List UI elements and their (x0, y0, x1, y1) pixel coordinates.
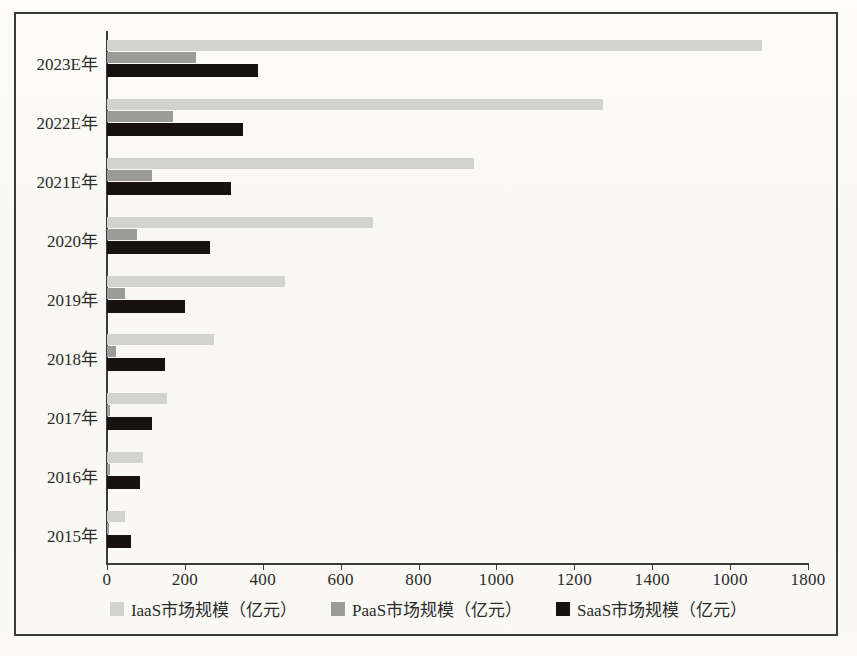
legend-item[interactable]: SaaS市场规模（亿元） (556, 596, 747, 621)
y-axis-category-label: 2023E年 (37, 50, 98, 75)
legend-label: PaaS市场规模（亿元） (352, 596, 522, 621)
x-tick-mark (185, 563, 186, 570)
bar-saas (107, 417, 152, 430)
chart-category-row: 2019年 (107, 269, 808, 328)
bar-paas (107, 464, 110, 475)
y-axis-category-label: 2021E年 (37, 168, 98, 193)
bar-paas (107, 288, 125, 299)
x-tick-mark (574, 563, 575, 570)
x-tick-label: 200 (172, 570, 198, 590)
bar-saas (107, 535, 131, 548)
bar-saas (107, 358, 165, 371)
x-axis-line (106, 563, 809, 565)
legend-label: SaaS市场规模（亿元） (577, 596, 747, 621)
x-tick-mark (652, 563, 653, 570)
bar-saas (107, 241, 210, 254)
bar-saas (107, 123, 243, 136)
legend-swatch-paas-icon (331, 602, 345, 616)
chart-category-row: 2015年 (107, 504, 808, 563)
bar-saas (107, 182, 231, 195)
x-tick-mark (419, 563, 420, 570)
chart-category-row: 2018年 (107, 327, 808, 386)
x-tick-label: 1000 (479, 570, 514, 590)
x-tick-label: 1400 (635, 570, 670, 590)
bar-saas (107, 300, 185, 313)
bar-iaas (107, 217, 373, 228)
chart-category-row: 2016年 (107, 445, 808, 504)
x-tick-mark (808, 563, 809, 570)
x-tick-label: 1200 (557, 570, 592, 590)
bar-iaas (107, 511, 125, 522)
x-tick-label: 600 (327, 570, 353, 590)
y-axis-category-label: 2015年 (47, 521, 98, 546)
y-axis-category-label: 2022E年 (37, 109, 98, 134)
bar-paas (107, 523, 109, 534)
x-tick-label: 1800 (790, 570, 825, 590)
bar-iaas (107, 334, 214, 345)
legend-swatch-iaas-icon (110, 602, 124, 616)
chart-legend: IaaS市场规模（亿元）PaaS市场规模（亿元）SaaS市场规模（亿元） (0, 596, 857, 621)
x-tick-label: 800 (405, 570, 431, 590)
bar-iaas (107, 99, 603, 110)
y-axis-category-label: 2018年 (47, 344, 98, 369)
x-tick-mark (730, 563, 731, 570)
x-tick-mark (263, 563, 264, 570)
bar-iaas (107, 452, 143, 463)
x-tick-mark (496, 563, 497, 570)
chart-category-row: 2023E年 (107, 33, 808, 92)
chart-category-row: 2017年 (107, 386, 808, 445)
chart-category-row: 2022E年 (107, 92, 808, 151)
bar-paas (107, 405, 110, 416)
x-tick-label: 0 (103, 570, 112, 590)
y-axis-category-label: 2016年 (47, 462, 98, 487)
x-tick-mark (107, 563, 108, 570)
bar-iaas (107, 276, 285, 287)
x-tick-label: 400 (250, 570, 276, 590)
x-tick-label: 1000 (713, 570, 748, 590)
chart-page: 020040060080010001200140010001800 2023E年… (0, 0, 857, 656)
legend-swatch-saas-icon (556, 602, 570, 616)
chart-category-row: 2021E年 (107, 151, 808, 210)
bar-iaas (107, 40, 762, 51)
bar-paas (107, 111, 173, 122)
bar-paas (107, 170, 152, 181)
bar-saas (107, 64, 258, 77)
bar-iaas (107, 158, 474, 169)
bar-paas (107, 229, 137, 240)
y-axis-category-label: 2020年 (47, 227, 98, 252)
bar-iaas (107, 393, 167, 404)
legend-label: IaaS市场规模（亿元） (131, 596, 297, 621)
plot-area: 2023E年2022E年2021E年2020年2019年2018年2017年20… (107, 33, 808, 563)
y-axis-category-label: 2019年 (47, 285, 98, 310)
bar-paas (107, 52, 196, 63)
bar-saas (107, 476, 140, 489)
y-axis-category-label: 2017年 (47, 403, 98, 428)
legend-item[interactable]: IaaS市场规模（亿元） (110, 596, 297, 621)
legend-item[interactable]: PaaS市场规模（亿元） (331, 596, 522, 621)
bar-paas (107, 346, 116, 357)
chart-category-row: 2020年 (107, 210, 808, 269)
x-tick-mark (341, 563, 342, 570)
